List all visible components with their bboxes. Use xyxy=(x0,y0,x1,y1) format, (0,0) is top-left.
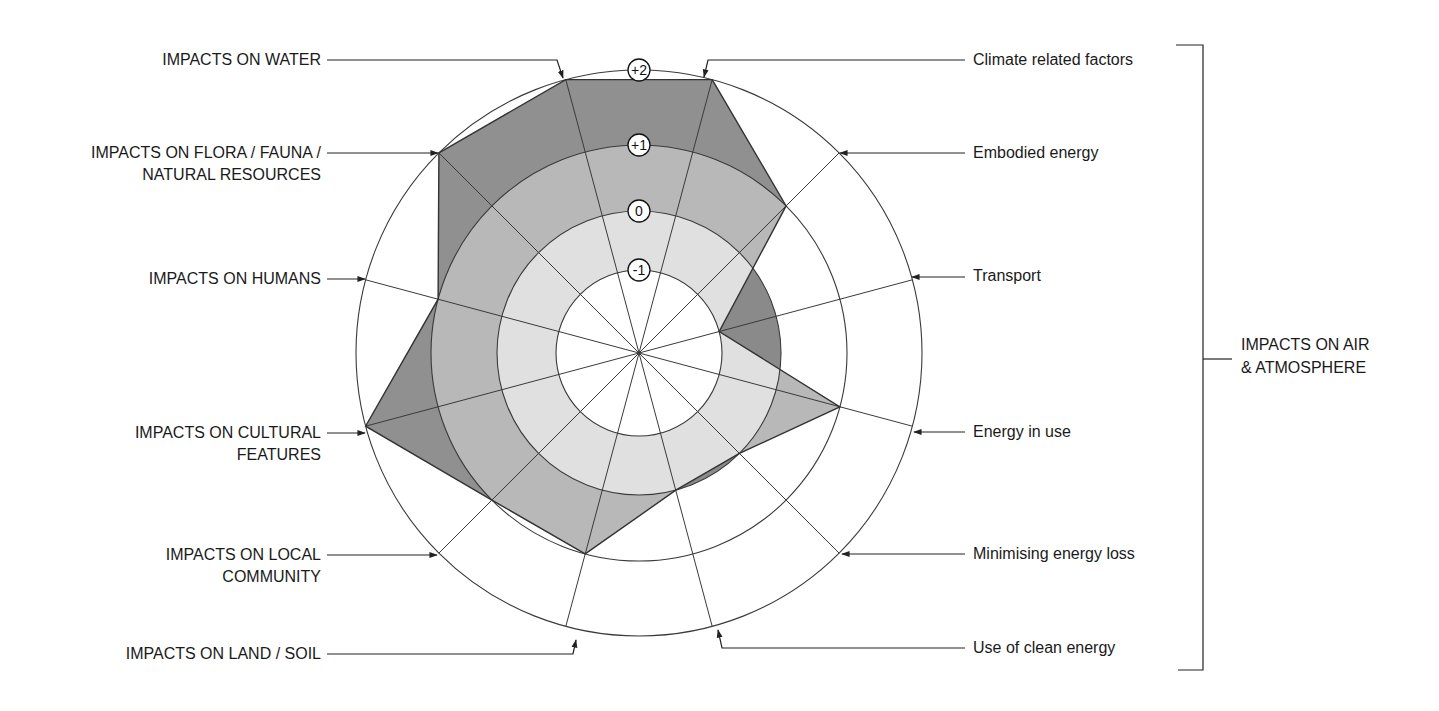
axis-label-text: Transport xyxy=(973,267,1041,284)
tick-badge: +2 xyxy=(628,59,650,81)
axis-label-climate: Climate related factors xyxy=(973,49,1133,71)
axis-label-text: Embodied energy xyxy=(973,144,1098,161)
axis-label-land: IMPACTS ON LAND / SOIL xyxy=(126,643,321,665)
axis-label-text: NATURAL RESOURCES xyxy=(91,164,321,186)
axis-label-flora: IMPACTS ON FLORA / FAUNA / NATURAL RESOU… xyxy=(91,142,321,186)
tick-badge: +1 xyxy=(628,134,650,156)
axis-label-energy-in-use: Energy in use xyxy=(973,421,1071,443)
axis-label-water: IMPACTS ON WATER xyxy=(162,49,321,71)
group-label-air-atmosphere: IMPACTS ON AIR & ATMOSPHERE xyxy=(1241,333,1370,379)
axis-label-humans: IMPACTS ON HUMANS xyxy=(149,268,321,290)
radar-chart: -10+1+2 xyxy=(0,0,1439,711)
group-label-text: IMPACTS ON AIR xyxy=(1241,333,1370,356)
tick-label: -1 xyxy=(633,262,646,278)
axis-label-text: IMPACTS ON CULTURAL xyxy=(135,422,321,444)
leader-clean xyxy=(718,630,965,648)
axis-label-text: IMPACTS ON FLORA / FAUNA / xyxy=(91,142,321,164)
axis-label-text: IMPACTS ON LOCAL xyxy=(166,544,321,566)
tick-label: +1 xyxy=(631,137,647,153)
axis-label-text: FEATURES xyxy=(135,444,321,466)
axis-label-text: Energy in use xyxy=(973,423,1071,440)
axis-label-text: IMPACTS ON LAND / SOIL xyxy=(126,645,321,662)
axis-label-embodied: Embodied energy xyxy=(973,142,1098,164)
leader-climate xyxy=(704,60,965,77)
axis-label-transport: Transport xyxy=(973,265,1041,287)
axis-label-clean: Use of clean energy xyxy=(973,637,1115,659)
axis-label-cultural: IMPACTS ON CULTURAL FEATURES xyxy=(135,422,321,466)
tick-badge: 0 xyxy=(628,200,650,222)
group-bracket xyxy=(1176,45,1203,670)
axis-label-text: IMPACTS ON WATER xyxy=(162,51,321,68)
axis-label-text: Use of clean energy xyxy=(973,639,1115,656)
axis-label-minimising: Minimising energy loss xyxy=(973,543,1135,565)
leader-water xyxy=(327,60,563,78)
axis-label-text: Minimising energy loss xyxy=(973,545,1135,562)
tick-label: 0 xyxy=(635,203,643,219)
tick-badge: -1 xyxy=(628,259,650,281)
group-label-text: & ATMOSPHERE xyxy=(1241,356,1370,379)
leader-land xyxy=(327,640,576,654)
tick-label: +2 xyxy=(631,62,647,78)
axis-label-text: Climate related factors xyxy=(973,51,1133,68)
axis-label-text: IMPACTS ON HUMANS xyxy=(149,270,321,287)
axis-label-text: COMMUNITY xyxy=(166,566,321,588)
axis-label-community: IMPACTS ON LOCAL COMMUNITY xyxy=(166,544,321,588)
